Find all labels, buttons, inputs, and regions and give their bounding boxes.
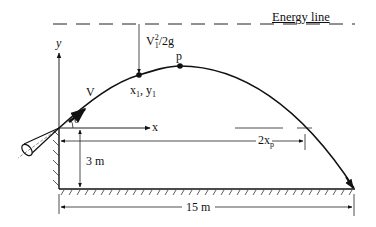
height-dimension-label: 3 m [86, 155, 104, 167]
x-axis-label: x [152, 121, 158, 133]
peak-label: p [176, 50, 182, 62]
point-1-label: x1, y1 [130, 84, 156, 99]
velocity-label: V [86, 86, 95, 98]
velocity-head-label: V12/2g [146, 34, 174, 50]
vh-rest: /2g [159, 34, 174, 48]
span-sub: p [270, 140, 274, 149]
jet-trajectory [59, 66, 354, 188]
y-axis-label: y [56, 37, 61, 49]
energy-line-label: Energy line [272, 11, 330, 24]
range-dimension-label: 15 m [186, 201, 210, 213]
angle-label: θ [74, 113, 80, 125]
p1-y-sub: 1 [152, 90, 156, 99]
point-1 [136, 72, 142, 78]
impact-arrow [346, 177, 353, 188]
jet-trajectory-diagram [0, 0, 376, 227]
peak-point [177, 63, 183, 69]
ground [59, 189, 355, 195]
span-2xp-label: 2xp [258, 134, 274, 149]
wall [53, 128, 59, 189]
nozzle [18, 128, 59, 158]
span-base: 2x [258, 133, 270, 147]
vh-base: V [146, 34, 155, 48]
